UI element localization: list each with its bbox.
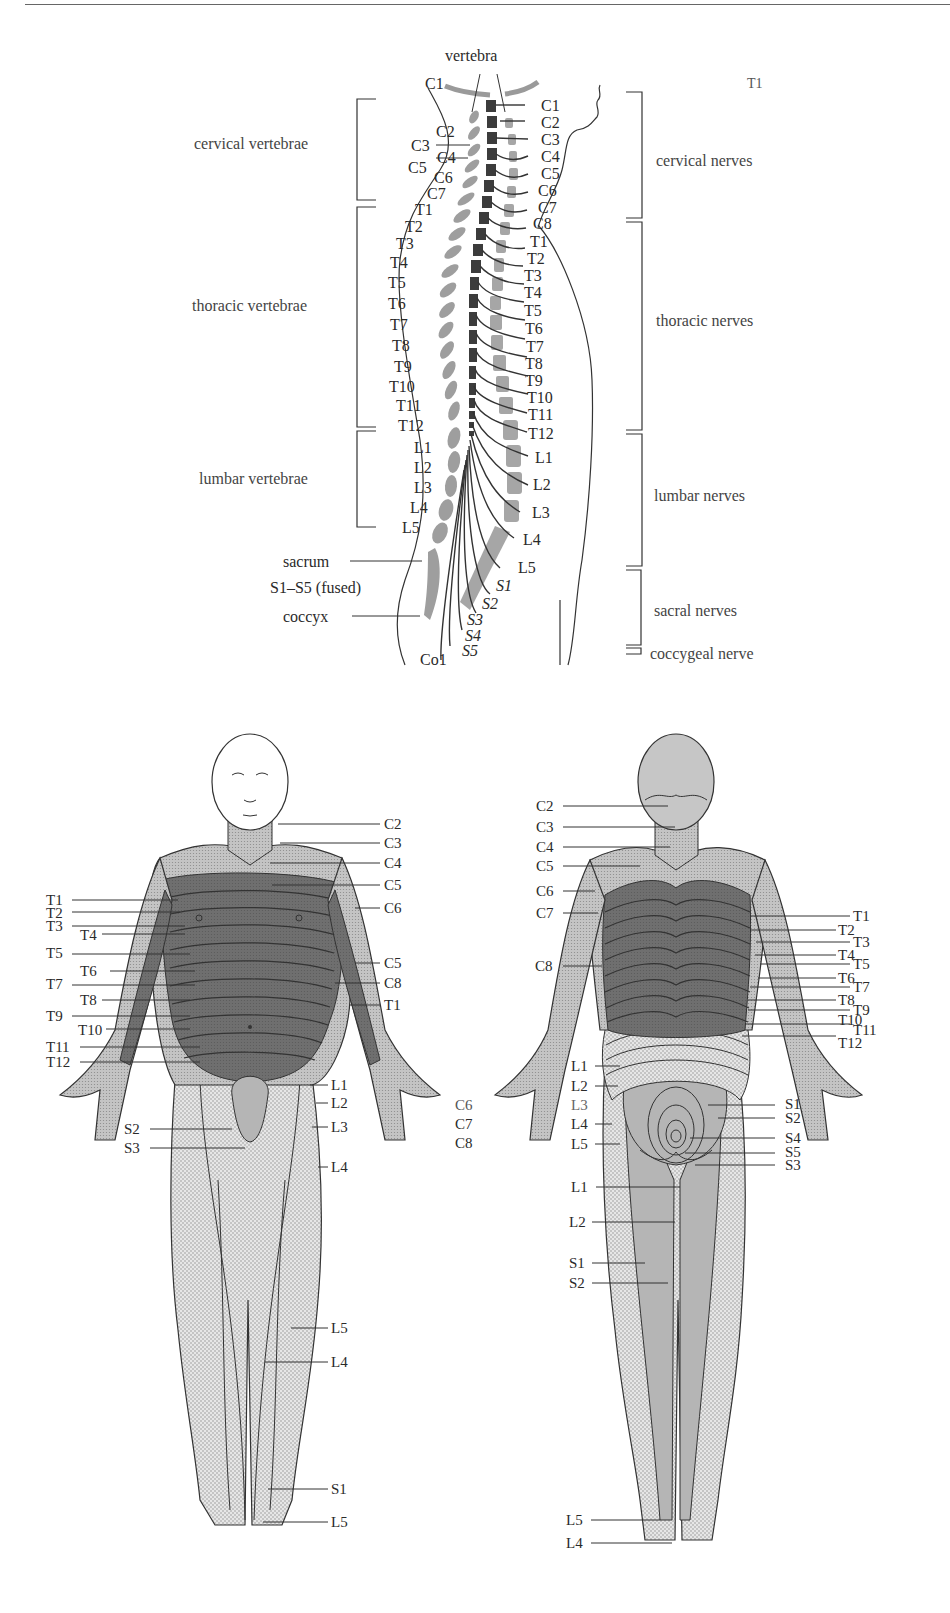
- back-right-label: T12: [838, 1036, 862, 1051]
- back-right-label: T3: [853, 935, 870, 950]
- back-left-label: C6: [536, 884, 554, 899]
- back-left-label: C3: [536, 820, 554, 835]
- back-right-label: S3: [785, 1158, 801, 1173]
- back-left-label: L4: [566, 1536, 583, 1551]
- back-left-label: C4: [536, 840, 554, 855]
- back-left-label: L2: [571, 1079, 588, 1094]
- back-left-label: C2: [536, 799, 554, 814]
- back-left-label: C5: [536, 859, 554, 874]
- back-right-label: T7: [853, 980, 870, 995]
- back-left-label: L1: [571, 1180, 588, 1195]
- back-right-label: T1: [853, 909, 870, 924]
- back-right-label: S2: [785, 1111, 801, 1126]
- back-left-label: L2: [569, 1215, 586, 1230]
- back-left-label: S2: [569, 1276, 585, 1291]
- back-right-label: T5: [853, 957, 870, 972]
- back-left-label: L1: [571, 1059, 588, 1074]
- back-left-label: L5: [566, 1513, 583, 1528]
- back-left-label: S1: [569, 1256, 585, 1271]
- back-left-label: L5: [571, 1137, 588, 1152]
- back-body-dermatome: [0, 0, 950, 1613]
- back-left-label: L4: [571, 1117, 588, 1132]
- back-left-label: L3: [571, 1098, 588, 1113]
- back-left-label: C7: [536, 906, 554, 921]
- back-left-label: C8: [535, 959, 553, 974]
